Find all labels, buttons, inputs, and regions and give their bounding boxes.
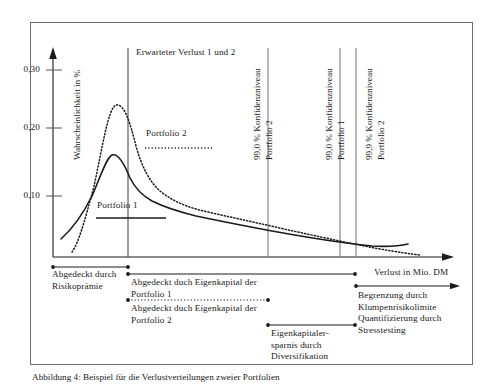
annotation-equity-portfolio-2: Abgedeckt duch Eigenkapital der Portfoli… — [131, 303, 257, 326]
figure-root: 0,30 0,20 0,10 Wahrscheinlichkeit in % E… — [0, 0, 485, 385]
span-diversification — [266, 323, 357, 327]
marker-label-conf-990-portfolio-2: 99,0 % Konfidenzniveau Portfolio 2 — [252, 68, 275, 160]
y-tick-label-010: 0,10 — [14, 190, 40, 202]
y-tick-label-030: 0,30 — [14, 64, 40, 76]
x-axis-title: Verlust in Mio. DM — [374, 267, 448, 279]
y-axis-title: Wahrscheinlichkeit in % — [72, 70, 84, 160]
span-stress-testing — [354, 283, 460, 290]
marker-label-conf-990-portfolio-1: 99,0 % Konfidenzniveau Portfolio 1 — [324, 68, 347, 160]
y-axis-ticks — [46, 70, 62, 196]
annotation-diversification: Eigenkapitaler- sparnis durch Diversifik… — [271, 328, 329, 363]
y-axis — [49, 47, 57, 257]
annotation-equity-portfolio-1: Abgedeckt duch Eigenkapital der Portfoli… — [131, 277, 257, 300]
marker-label-expected-loss: Erwarteter Verlust 1 und 2 — [136, 47, 235, 59]
marker-label-conf-999-portfolio-2: 99,9 % Konfidenzniveau Portfolio 2 — [364, 68, 387, 160]
y-tick-label-020: 0,20 — [14, 122, 40, 134]
annotation-stress-testing: Begrenzung durch Klumpenrisikolimite Qua… — [358, 290, 441, 336]
legend-label-portfolio-1: Portfolio 1 — [97, 200, 138, 212]
span-equity-portfolio-1 — [126, 272, 357, 276]
annotation-risk-premium: Abgedeckt durch Risikoprämie — [52, 269, 117, 292]
x-axis — [53, 253, 454, 261]
legend-label-portfolio-2: Portfolio 2 — [146, 128, 187, 140]
figure-caption: Abbildung 4: Beispiel für die Verlustver… — [32, 372, 280, 382]
